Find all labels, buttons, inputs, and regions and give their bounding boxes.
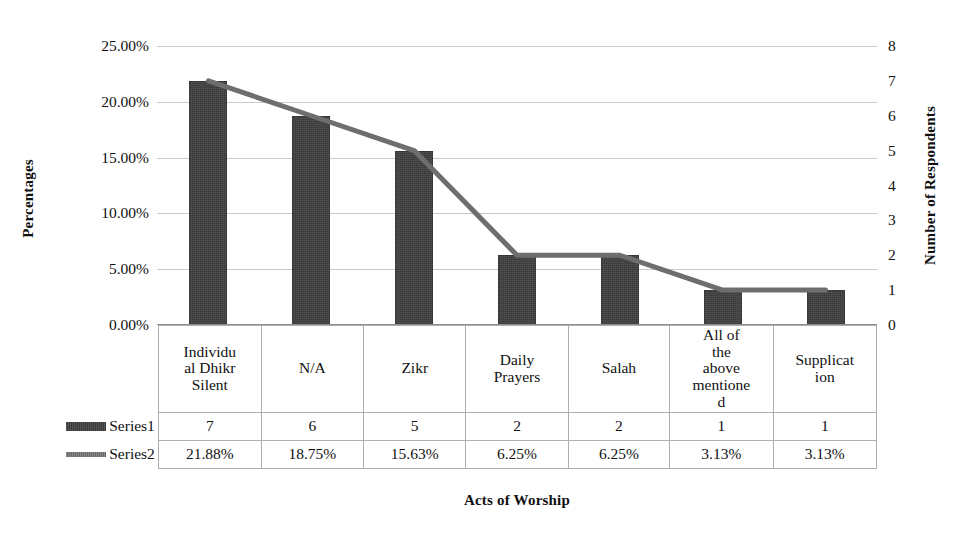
table-value-cell: 3.13% — [670, 440, 773, 468]
legend-line-swatch-icon — [66, 452, 106, 457]
y-axis-left-title-text: Percentages — [20, 159, 37, 238]
y-axis-left-tick-label: 10.00% — [49, 204, 149, 222]
y-axis-right-tick-label: 2 — [888, 246, 928, 264]
table-value-cell: 1 — [773, 412, 876, 440]
line-path — [208, 81, 825, 290]
table-row: Series1 7652211 — [27, 412, 877, 440]
y-axis-right-tick-label: 0 — [888, 316, 928, 334]
y-axis-right-tick-label: 1 — [888, 281, 928, 299]
x-axis-title: Acts of Worship — [157, 492, 877, 509]
y-axis-right-tick-label: 6 — [888, 107, 928, 125]
table-value-cell: 2 — [568, 412, 670, 440]
table-value-cell: 6 — [261, 412, 363, 440]
table-value-cell: 21.88% — [158, 440, 261, 468]
y-axis-right-tick-label: 7 — [888, 72, 928, 90]
table-category-cell: Zikr — [364, 326, 466, 413]
table-category-cell: All oftheabovementioned — [670, 326, 773, 413]
table-category-cell: N/A — [261, 326, 363, 413]
legend-label-series1: Series1 — [109, 417, 155, 434]
y-axis-left-tick-label: 25.00% — [49, 37, 149, 55]
table-value-cell: 6.25% — [568, 440, 670, 468]
y-axis-right-tick-label: 4 — [888, 177, 928, 195]
table-category-cell: Salah — [568, 326, 670, 413]
legend-label-series2: Series2 — [109, 445, 155, 462]
y-axis-left-tick-label: 20.00% — [49, 93, 149, 111]
table-category-cell: Individual DhikrSilent — [158, 326, 261, 413]
combo-chart: Percentages Number of Respondents 0.00%5… — [0, 0, 959, 535]
table-row: Series2 21.88%18.75%15.63%6.25%6.25%3.13… — [27, 440, 877, 468]
table-value-cell: 18.75% — [261, 440, 363, 468]
table-category-cell: DailyPrayers — [466, 326, 568, 413]
table-value-cell: 3.13% — [773, 440, 876, 468]
y-axis-left-title: Percentages — [14, 108, 42, 288]
table-category-row: Individual DhikrSilentN/AZikrDailyPrayer… — [27, 326, 877, 413]
table-corner-cell — [27, 326, 158, 413]
table-value-cell: 2 — [466, 412, 568, 440]
line-series — [157, 46, 877, 325]
table-value-cell: 6.25% — [466, 440, 568, 468]
data-table: Individual DhikrSilentN/AZikrDailyPrayer… — [27, 325, 877, 469]
y-axis-left-tick-label: 15.00% — [49, 149, 149, 167]
y-axis-left-tick-label: 5.00% — [49, 260, 149, 278]
table-category-cell: Supplication — [773, 326, 876, 413]
legend-item-series1: Series1 — [27, 412, 158, 440]
y-axis-right-tick-label: 5 — [888, 142, 928, 160]
table-value-cell: 5 — [364, 412, 466, 440]
y-axis-right-tick-label: 3 — [888, 211, 928, 229]
table-value-cell: 15.63% — [364, 440, 466, 468]
legend-bar-swatch-icon — [66, 422, 106, 431]
table-value-cell: 7 — [158, 412, 261, 440]
table-value-cell: 1 — [670, 412, 773, 440]
plot-area — [157, 46, 877, 325]
legend-item-series2: Series2 — [27, 440, 158, 468]
y-axis-right-tick-label: 8 — [888, 37, 928, 55]
